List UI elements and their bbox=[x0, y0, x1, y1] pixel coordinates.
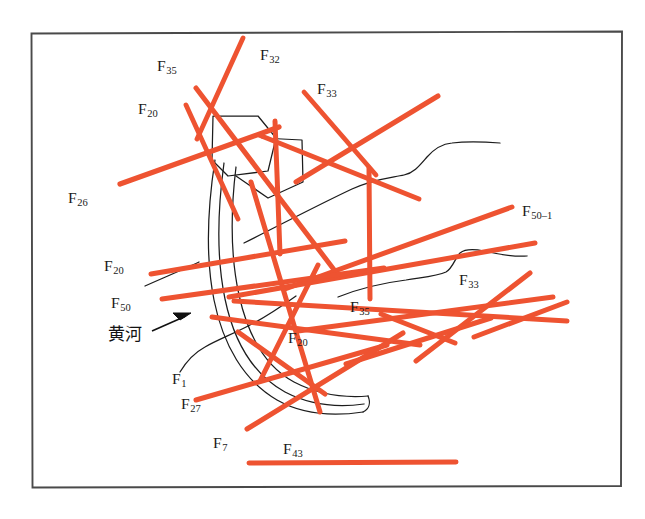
fault-line-f43 bbox=[249, 462, 456, 463]
fault-label-f50: F50 bbox=[111, 295, 130, 311]
fault-label-f32: F32 bbox=[260, 47, 279, 63]
fault-label-f35-upper: F35 bbox=[157, 58, 176, 74]
fault-label-f20-upper: F20 bbox=[138, 101, 157, 117]
fault-label-f1: F1 bbox=[172, 371, 186, 387]
fault-label-f20-mid: F20 bbox=[104, 258, 123, 274]
fault-label-f7: F7 bbox=[213, 435, 227, 451]
fault-label-f33-right: F33 bbox=[459, 272, 478, 288]
fault-label-f27: F27 bbox=[181, 396, 200, 412]
page-background bbox=[0, 0, 645, 519]
fault-label-f35-lower: F35 bbox=[350, 299, 369, 315]
river-label-huanghe: 黄河 bbox=[108, 326, 142, 343]
fault-label-f33-upper: F33 bbox=[317, 81, 336, 97]
fault-label-f26: F26 bbox=[68, 190, 87, 206]
fault-label-f43: F43 bbox=[283, 441, 302, 457]
fault-map-figure: F32 F35 F33 F20 F26 F50–1 F20 F33 F50 F3… bbox=[0, 0, 645, 519]
fault-label-f50-1: F50–1 bbox=[522, 203, 552, 219]
fault-label-f20-lower: F20 bbox=[288, 330, 307, 346]
fault-line-f33-trunk bbox=[369, 168, 370, 299]
fault-map-canvas bbox=[0, 0, 645, 519]
